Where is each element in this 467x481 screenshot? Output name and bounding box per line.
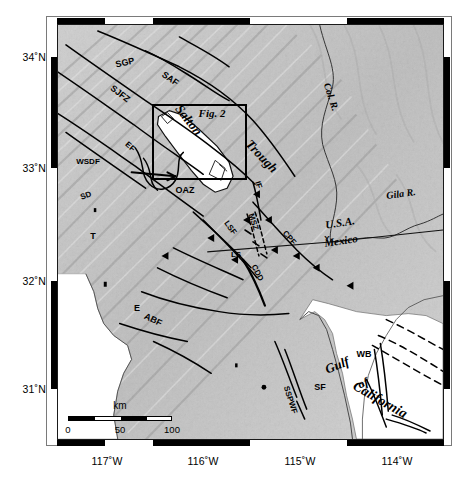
- shaded-relief-terrain: [58, 25, 443, 439]
- figure-container: 34˚N 33˚N 32˚N 31˚N 117˚W 116˚W 115˚W 11…: [0, 0, 467, 481]
- scale-bar: [68, 416, 172, 421]
- y-tick-31N: 31˚N: [6, 383, 46, 395]
- frame-ticks-bottom: [57, 440, 444, 446]
- terrain-svg: [58, 25, 443, 439]
- frame-ticks-right: [444, 24, 450, 440]
- scale-tick-50: 50: [110, 424, 130, 435]
- y-tick-32N: 32˚N: [6, 275, 46, 287]
- y-tick-34N: 34˚N: [6, 51, 46, 63]
- x-tick-114W: 114˚W: [371, 455, 423, 467]
- frame-ticks-left: [51, 24, 57, 440]
- x-tick-115W: 115˚W: [274, 455, 326, 467]
- map-plot-area: [57, 24, 444, 440]
- frame-ticks-top: [57, 18, 444, 24]
- figure-2-inset-box: [152, 104, 247, 180]
- scale-tick-0: 0: [58, 424, 78, 435]
- x-tick-117W: 117˚W: [81, 455, 133, 467]
- y-tick-33N: 33˚N: [6, 162, 46, 174]
- scale-tick-100: 100: [160, 424, 184, 435]
- scale-bar-unit: km: [82, 400, 158, 411]
- x-tick-116W: 116˚W: [177, 455, 229, 467]
